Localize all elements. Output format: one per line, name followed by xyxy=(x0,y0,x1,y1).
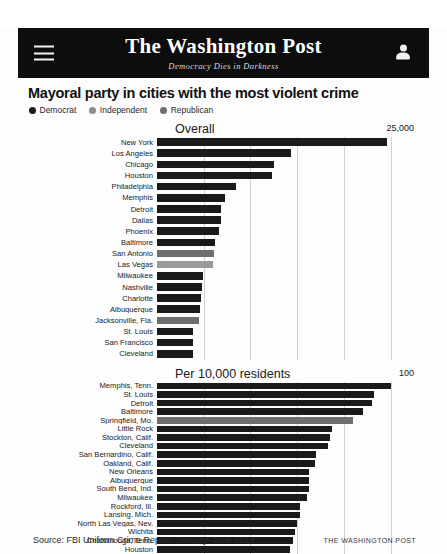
masthead-slogan: Democracy Dies in Darkness xyxy=(125,62,322,71)
bar-row: Las Vegas xyxy=(10,260,414,271)
masthead: The Washington Post Democracy Dies in Da… xyxy=(125,36,322,71)
bar-track xyxy=(157,182,414,193)
bar-row: San Antonio xyxy=(10,248,414,259)
category-label: Chicago xyxy=(10,161,157,169)
bar-row: Chicago xyxy=(10,159,414,170)
bar xyxy=(157,469,309,476)
bar-track xyxy=(157,349,414,360)
source-note: Source: FBI Uniform Crime Report, Januar… xyxy=(33,535,255,545)
legend-label: Independent xyxy=(100,105,147,115)
bar-track xyxy=(157,519,414,528)
axis-max-label: 100 xyxy=(399,368,414,378)
bar-row: South Bend, Ind. xyxy=(10,485,414,494)
bar xyxy=(157,350,193,358)
category-label: Houston xyxy=(10,172,157,180)
bar-track xyxy=(157,293,414,304)
category-label: Little Rock xyxy=(10,425,157,433)
bar-track xyxy=(157,502,414,511)
bar xyxy=(157,172,272,180)
bar-track xyxy=(157,451,414,460)
bar xyxy=(157,383,391,390)
legend-swatch-icon xyxy=(29,107,36,114)
bar xyxy=(157,294,201,302)
bar xyxy=(157,328,193,336)
bar-row: Los Angeles xyxy=(10,148,414,159)
bar xyxy=(157,460,315,467)
chart-legend: DemocratIndependentRepublican xyxy=(29,105,447,115)
bar-track xyxy=(157,390,414,399)
avatar-head xyxy=(400,45,407,52)
bar-track xyxy=(157,485,414,494)
category-label: Springfield, Mo. xyxy=(10,417,157,425)
bar xyxy=(157,408,363,415)
category-label: Baltimore xyxy=(10,239,157,247)
bar-track xyxy=(157,282,414,293)
bar xyxy=(157,426,332,433)
bar xyxy=(157,512,300,519)
bar-row: Springfield, Mo. xyxy=(10,416,414,425)
user-avatar-icon[interactable] xyxy=(395,45,411,62)
bar xyxy=(157,183,236,191)
page-title: Mayoral party in cities with the most vi… xyxy=(28,85,447,101)
bar-row: Cleveland xyxy=(10,442,414,451)
bar xyxy=(157,194,225,202)
category-label: Memphis xyxy=(10,194,157,202)
bar xyxy=(157,546,290,553)
bar-row: Detroit xyxy=(10,399,414,408)
hamburger-menu-icon[interactable] xyxy=(34,46,54,61)
category-label: New York xyxy=(10,139,157,147)
bar-track xyxy=(157,433,414,442)
bar-row: Oakland, Calif. xyxy=(10,459,414,468)
category-label: Jacksonville, Fla. xyxy=(10,317,157,325)
category-label: Las Vegas xyxy=(10,261,157,269)
category-label: Memphis, Tenn. xyxy=(10,382,157,390)
bar-track xyxy=(157,271,414,282)
bar-row: St. Louis xyxy=(10,390,414,399)
plot-area: New YorkLos AngelesChicagoHoustonPhilade… xyxy=(10,137,414,360)
chart-title: Overall xyxy=(175,122,215,136)
bar-row: Cleveland xyxy=(10,349,414,360)
bar xyxy=(157,149,291,157)
bar-row: Houston xyxy=(10,545,414,554)
bar-track xyxy=(157,315,414,326)
bar-track xyxy=(157,204,414,215)
bar xyxy=(157,520,297,527)
category-label: San Bernardino, Calif. xyxy=(10,451,157,459)
bar-track xyxy=(157,382,414,391)
bar xyxy=(157,272,203,280)
category-label: Lansing, Mich. xyxy=(10,511,157,519)
category-label: Dallas xyxy=(10,217,157,225)
bar-row: Albuquerque xyxy=(10,476,414,485)
bar-row: Milwaukee xyxy=(10,494,414,503)
axis-max-label: 25,000 xyxy=(386,123,414,133)
category-label: Albuquerque xyxy=(10,306,157,314)
legend-label: Republican xyxy=(171,105,214,115)
chart-1: Overall25,000New YorkLos AngelesChicagoH… xyxy=(0,122,447,360)
category-label: Milwaukee xyxy=(10,272,157,280)
bar xyxy=(157,434,330,441)
bar-track xyxy=(157,408,414,417)
category-label: Los Angeles xyxy=(10,150,157,158)
bar xyxy=(157,391,374,398)
bar xyxy=(157,250,214,258)
chart-2: Per 10,000 residents100Memphis, Tenn.St.… xyxy=(0,367,447,554)
bar-track xyxy=(157,170,414,181)
category-label: Oakland, Calif. xyxy=(10,460,157,468)
bar xyxy=(157,486,309,493)
bar-track xyxy=(157,148,414,159)
chart-title: Per 10,000 residents xyxy=(175,367,290,381)
bar-row: San Bernardino, Calif. xyxy=(10,451,414,460)
bar xyxy=(157,138,387,146)
bar-track xyxy=(157,137,414,148)
bar-row: Rockford, Ill. xyxy=(10,502,414,511)
category-label: Milwaukee xyxy=(10,494,157,502)
plot-area: Memphis, Tenn.St. LouisDetroitBaltimoreS… xyxy=(10,382,414,554)
top-strip xyxy=(0,0,447,28)
bar-row: Dallas xyxy=(10,215,414,226)
bar xyxy=(157,451,316,458)
category-label: Cleveland xyxy=(10,442,157,450)
bar-track xyxy=(157,399,414,408)
bar-row: New York xyxy=(10,137,414,148)
charts-container: Overall25,000New YorkLos AngelesChicagoH… xyxy=(0,122,447,554)
category-label: Nashville xyxy=(10,284,157,292)
